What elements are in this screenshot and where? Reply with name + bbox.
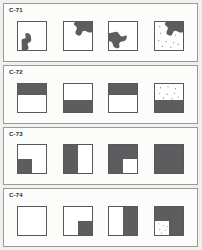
figure-cell[interactable] [63, 21, 93, 51]
figure-cell[interactable] [108, 144, 138, 174]
panel-c74: C-74 [3, 188, 198, 247]
figure-cell[interactable] [154, 83, 184, 113]
quadrant-top-left [64, 145, 78, 159]
quadrant-top-right [123, 207, 137, 221]
fill-band-bottom [155, 100, 183, 111]
quadrant-top-right [169, 207, 183, 221]
quadrant-top-left [155, 145, 169, 159]
figure-cell[interactable] [17, 21, 47, 51]
panel-label: C-71 [4, 4, 197, 14]
panel-c71: C-71 [3, 3, 198, 62]
panel-label: C-72 [4, 66, 197, 76]
figure-cell[interactable] [17, 206, 47, 236]
figure-cell[interactable] [17, 83, 47, 113]
figure-cell[interactable] [108, 21, 138, 51]
quadrant-bottom-right [78, 221, 92, 235]
figure-cell[interactable] [63, 206, 93, 236]
worksheet-sheet: C-71 [0, 0, 202, 250]
panel-c72: C-72 [3, 65, 198, 124]
quadrant-bottom-right [169, 221, 183, 235]
quadrant-bottom-right [123, 221, 137, 235]
quadrant-bottom-left [18, 159, 32, 173]
panel-label: C-73 [4, 128, 197, 138]
quadrant-top-left [109, 145, 123, 159]
fill-band-top [18, 84, 46, 95]
panel-label: C-74 [4, 189, 197, 199]
figure-cell[interactable] [154, 206, 184, 236]
puzzle-piece-icon [18, 22, 46, 50]
figure-cell[interactable] [63, 83, 93, 113]
panel-c73: C-73 [3, 127, 198, 186]
fill-band-bottom [64, 100, 92, 111]
quadrant-bottom-left [155, 159, 169, 173]
cell-row [4, 138, 197, 185]
quadrant-top-right [169, 145, 183, 159]
quadrant-bottom-left [64, 159, 78, 173]
fill-band-top [109, 84, 137, 95]
figure-cell[interactable] [108, 83, 138, 113]
puzzle-piece-icon [109, 22, 137, 50]
figure-cell[interactable] [63, 144, 93, 174]
quadrant-top-left [155, 207, 169, 221]
quadrant-top-right [123, 145, 137, 159]
quadrant-bottom-left [109, 159, 123, 173]
puzzle-piece-icon [64, 22, 92, 50]
figure-cell[interactable] [154, 21, 184, 51]
figure-cell[interactable] [154, 144, 184, 174]
figure-cell[interactable] [17, 144, 47, 174]
cell-row [4, 199, 197, 246]
cell-row [4, 14, 197, 61]
cell-row [4, 76, 197, 123]
figure-cell[interactable] [108, 206, 138, 236]
quadrant-bottom-right [169, 159, 183, 173]
puzzle-piece-icon [155, 22, 183, 50]
